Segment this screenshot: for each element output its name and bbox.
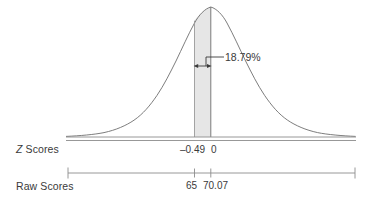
- z-tick-label-zero: 0: [211, 144, 217, 155]
- shaded-area-region: [195, 7, 211, 137]
- z-tick-label-neg-049: –0.49: [180, 144, 205, 155]
- z-scores-axis-label: Z Scores: [16, 143, 59, 155]
- raw-scores-axis-label: Raw Scores: [16, 180, 74, 192]
- distribution-plot: [0, 0, 376, 205]
- raw-tick-label-65: 65: [186, 180, 197, 191]
- raw-scores-axis: [68, 168, 355, 179]
- raw-tick-label-7007: 70.07: [203, 180, 228, 191]
- z-scores-label-rest: Scores: [23, 143, 59, 155]
- percent-annotation-label: 18.79%: [225, 51, 261, 63]
- normal-distribution-figure: Z Scores Raw Scores –0.49 0 65 70.07 18.…: [0, 0, 376, 205]
